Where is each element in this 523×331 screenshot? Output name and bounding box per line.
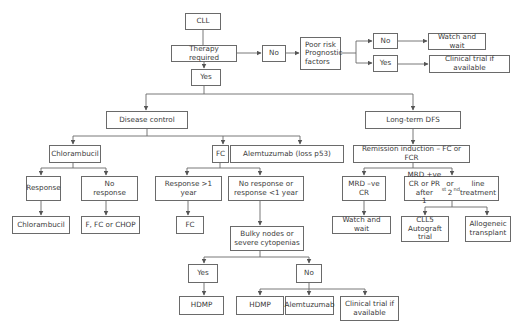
node-chlorambucil-outcome: Chlorambucil [12,216,70,234]
node-hdmp-no: HDMP [236,296,284,315]
node-clinical-trial-top: Clinical trial if available [429,55,510,73]
node-mrd-negative-cr: MRD –ve CR [342,176,386,201]
node-yes-poor-risk: Yes [373,55,398,72]
node-f-fc-chop: F, FC or CHOP [81,216,140,234]
node-remission-induction: Remission induction – FC or FCR [353,145,470,163]
node-watch-and-wait-bottom: Watch and wait [332,216,391,234]
node-watch-and-wait-top: Watch and wait [428,33,486,50]
node-clinical-trial-bottom: Clinical trial if available [340,296,399,321]
node-fc-outcome: FC [176,216,204,234]
node-chlorambucil: Chlorambucil [49,145,101,163]
node-fc: FC [212,145,229,163]
node-therapy-required: Therapy required [171,45,237,62]
node-response-gt-1-year: Response >1 year [155,176,222,201]
node-no-bulky: No [296,264,322,283]
node-alemtuzumab-loss-p53: Alemtuzumab (loss p53) [230,145,344,163]
node-no-poor-risk: No [373,33,398,49]
node-disease-control: Disease control [106,111,188,129]
node-alemtuzumab: Alemtuzumab [285,296,334,315]
node-bulky-nodes: Bulky nodes or severe cytopenias [230,226,304,251]
node-poor-risk-prognostic-factors: Poor risk Prognostic factors [300,37,341,70]
node-cll: CLL [185,13,221,30]
node-no-response: No response [81,176,138,201]
node-yes-bulky: Yes [188,264,218,283]
node-no-therapy: No [262,45,286,62]
node-yes-therapy: Yes [191,69,221,86]
node-allogeneic-transplant: Allogeneic transplant [465,216,511,242]
node-mrd-positive: MRD +ve CR or PR after1st or 2nd line tr… [404,176,499,201]
node-no-response-lt-1-year: No response or response <1 year [228,176,304,201]
cll-treatment-flowchart: CLL Therapy required No Poor risk Progno… [0,0,523,331]
node-response: Response [26,176,61,201]
node-cll5-autograft-trial: CLL5 Autograft trial [401,216,449,242]
node-long-term-dfs: Long-term DFS [365,111,461,129]
node-hdmp-yes: HDMP [179,296,224,315]
